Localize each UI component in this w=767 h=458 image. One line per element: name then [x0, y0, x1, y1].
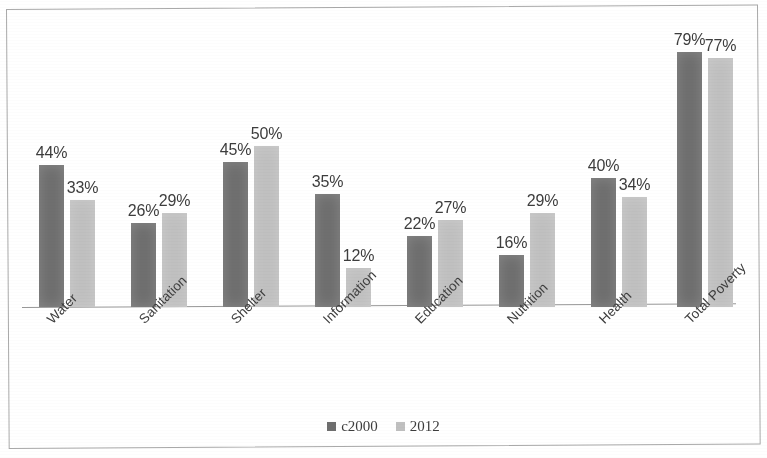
bar-group: 40%34%	[590, 15, 648, 307]
bar-value-label: 77%	[705, 37, 736, 55]
bar-rect	[677, 52, 702, 307]
bar-nutrition-2012: 29%	[530, 15, 555, 307]
bar-value-label: 44%	[36, 144, 67, 162]
legend-item-2012[interactable]: 2012	[396, 418, 440, 435]
bar-information-2012: 12%	[346, 15, 371, 307]
bar-group: 22%27%	[406, 15, 464, 307]
bar-value-label: 50%	[251, 125, 282, 143]
bar-rect	[131, 223, 156, 307]
bar-shelter-2012: 50%	[254, 15, 279, 307]
legend-item-c2000[interactable]: c2000	[327, 418, 378, 435]
bar-health-c2000: 40%	[591, 15, 616, 307]
bar-rect	[39, 165, 64, 307]
bar-education-c2000: 22%	[407, 15, 432, 307]
bar-rect	[591, 178, 616, 307]
bar-value-label: 12%	[343, 247, 374, 265]
bar-rect	[407, 236, 432, 307]
bar-value-label: 27%	[435, 199, 466, 217]
bar-value-label: 33%	[67, 179, 98, 197]
bar-group: 16%29%	[498, 15, 556, 307]
bar-group: 79%77%	[676, 15, 734, 307]
bar-total-poverty-2012: 77%	[708, 15, 733, 307]
bar-value-label: 34%	[619, 176, 650, 194]
bar-rect	[254, 146, 279, 307]
bar-water-2012: 33%	[70, 15, 95, 307]
bar-chart: 44%33%26%29%45%50%35%12%22%27%16%29%40%3…	[0, 0, 767, 458]
bar-water-c2000: 44%	[39, 15, 64, 307]
bar-value-label: 40%	[588, 157, 619, 175]
bar-total-poverty-c2000: 79%	[677, 15, 702, 307]
bar-sanitation-c2000: 26%	[131, 15, 156, 307]
bar-value-label: 16%	[496, 234, 527, 252]
bar-value-label: 22%	[404, 215, 435, 233]
bar-group: 44%33%	[38, 15, 96, 307]
bar-rect	[70, 200, 95, 307]
bar-education-2012: 27%	[438, 15, 463, 307]
legend-label: 2012	[410, 418, 440, 435]
bar-value-label: 45%	[220, 141, 251, 159]
bar-group: 35%12%	[314, 15, 372, 307]
bar-group: 26%29%	[130, 15, 188, 307]
bar-shelter-c2000: 45%	[223, 15, 248, 307]
chart-legend: c20002012	[0, 418, 767, 435]
bar-group: 45%50%	[222, 15, 280, 307]
bar-nutrition-c2000: 16%	[499, 15, 524, 307]
bar-sanitation-2012: 29%	[162, 15, 187, 307]
bar-value-label: 29%	[159, 192, 190, 210]
bar-health-2012: 34%	[622, 15, 647, 307]
bar-rect	[315, 194, 340, 307]
bar-value-label: 35%	[312, 173, 343, 191]
bar-value-label: 79%	[674, 31, 705, 49]
bar-rect	[223, 162, 248, 307]
legend-swatch-icon	[396, 422, 405, 431]
legend-label: c2000	[341, 418, 378, 435]
bar-value-label: 29%	[527, 192, 558, 210]
bar-value-label: 26%	[128, 202, 159, 220]
legend-swatch-icon	[327, 422, 336, 431]
bar-information-c2000: 35%	[315, 15, 340, 307]
